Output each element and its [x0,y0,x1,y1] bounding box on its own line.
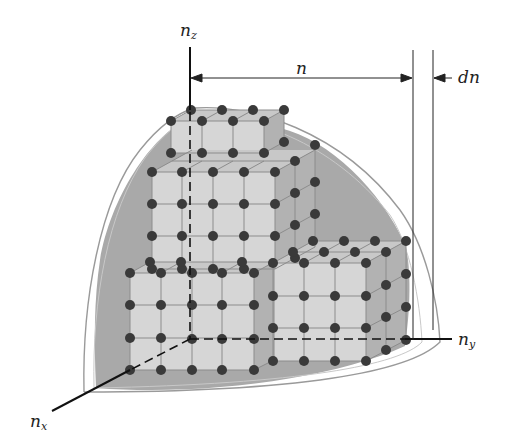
n-arrow-right-head [401,74,412,82]
shell-thickness-dn-label: dn [458,69,480,86]
diagram-canvas [0,0,510,446]
nx-axis-solid [52,370,130,411]
ny-axis-label: ny [458,331,475,350]
n-arrow-left-head [191,74,202,82]
nx-axis-label: nx [30,413,47,432]
nz-axis-label: nz [180,22,197,41]
n-space-diagram: nz ny nx n dn [0,0,510,446]
top-block [171,110,284,153]
dn-arrow-head [434,74,445,82]
radius-n-label: n [296,60,307,77]
bottom-left-block [130,262,274,370]
